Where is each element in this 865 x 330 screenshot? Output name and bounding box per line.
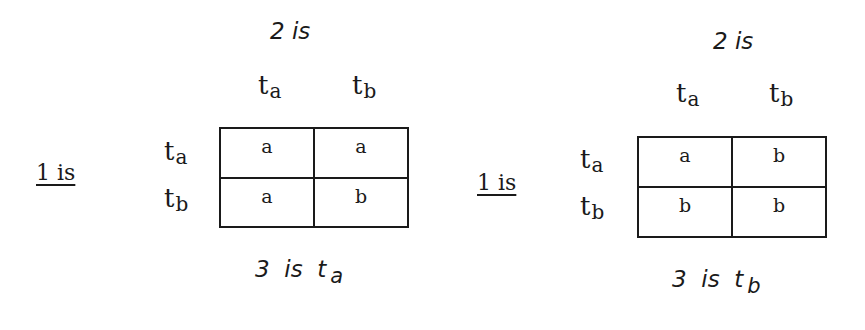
cell-ta-tb: a (314, 128, 408, 178)
row-header-tb: tb (580, 193, 604, 219)
row-header-tb: tb (164, 185, 188, 211)
player1-label: 1 is (36, 160, 75, 185)
cell-tb-ta: a (220, 178, 314, 227)
payoff-matrix: a b b b (637, 136, 827, 238)
payoff-matrix: a a a b (219, 127, 409, 228)
cell-ta-ta: a (220, 128, 314, 178)
row-header-ta: ta (580, 146, 603, 172)
cell-ta-tb: b (732, 137, 826, 187)
cell-tb-tb: b (314, 178, 408, 227)
column-header-tb: tb (352, 72, 376, 98)
outcome-label: 3 is ta (255, 256, 343, 282)
cell-ta-ta: a (638, 137, 732, 187)
outcome-label: 3 is tb (672, 266, 761, 292)
row-header-ta: ta (164, 138, 187, 164)
column-header-tb: tb (769, 80, 793, 106)
player2-label: 2 is (713, 28, 753, 54)
player1-label: 1 is (477, 170, 516, 195)
column-header-ta: ta (258, 72, 281, 98)
cell-tb-ta: b (638, 187, 732, 237)
column-header-ta: ta (676, 80, 699, 106)
player2-label: 2 is (270, 18, 310, 44)
cell-tb-tb: b (732, 187, 826, 237)
